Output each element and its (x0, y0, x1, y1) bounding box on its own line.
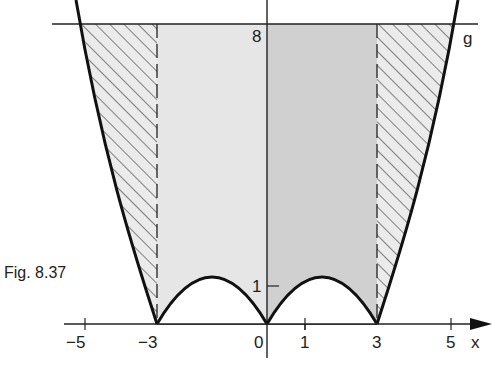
x-axis-label: x (471, 334, 480, 351)
figure-canvas (0, 0, 492, 366)
figure-caption: Fig. 8.37 (4, 265, 66, 281)
right-hatched-region (377, 24, 453, 324)
x-label-minus-5: −5 (66, 334, 85, 351)
x-label-5: 5 (446, 334, 455, 351)
y-label-8: 8 (252, 28, 261, 45)
x-label-minus-3: −3 (138, 334, 157, 351)
x-axis-arrow-icon (470, 318, 492, 330)
line-g-label: g (463, 30, 472, 47)
x-label-3: 3 (372, 334, 381, 351)
left-hatched-region (82, 24, 157, 324)
x-label-0: 0 (254, 334, 263, 351)
y-label-1: 1 (252, 278, 261, 295)
x-label-1: 1 (300, 334, 309, 351)
